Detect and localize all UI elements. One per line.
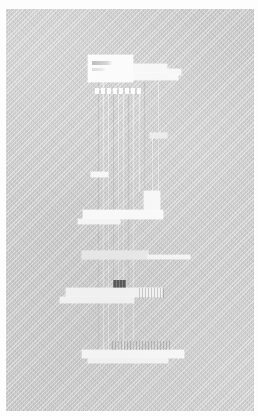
primary-panel-extension-a[interactable]: [133, 64, 167, 73]
stacked-panel-bar[interactable]: [83, 210, 163, 219]
stacked-panel-footer[interactable]: [78, 219, 120, 224]
bottom-panel-bar[interactable]: [82, 350, 184, 358]
connector-10[interactable]: [144, 82, 145, 192]
primary-panel-extension-c[interactable]: [167, 69, 181, 75]
primary-panel-title-text: [92, 61, 112, 65]
connector-6[interactable]: [123, 94, 124, 352]
canvas-title: [0, 0, 1, 1]
wide-panel-upper-tail[interactable]: [148, 255, 190, 259]
connector-11[interactable]: [152, 138, 153, 192]
primary-panel-label-row[interactable]: [95, 88, 143, 94]
bottom-panel-footer[interactable]: [88, 358, 168, 363]
wide-panel-upper[interactable]: [82, 251, 148, 259]
connector-7[interactable]: [128, 94, 129, 290]
selected-node-badge[interactable]: [113, 280, 126, 288]
grid-cell-group[interactable]: [139, 288, 165, 298]
floating-tag[interactable]: [150, 133, 167, 138]
screenshot-root: [0, 0, 258, 416]
connector-9[interactable]: [139, 94, 140, 192]
wide-panel-lower-footer[interactable]: [60, 297, 134, 303]
graph-canvas[interactable]: [6, 9, 254, 411]
primary-panel[interactable]: [88, 55, 133, 82]
secondary-tag[interactable]: [91, 172, 108, 177]
canvas-note: [0, 0, 1, 1]
bottom-grid-group[interactable]: [112, 341, 172, 350]
connector-8[interactable]: [133, 94, 134, 352]
primary-panel-subtitle-text: [92, 68, 106, 71]
